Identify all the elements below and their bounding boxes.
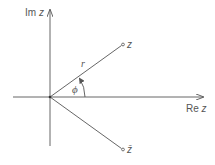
- real-axis-label-prefix: Re: [186, 103, 199, 114]
- real-axis-label-var: z: [201, 103, 207, 114]
- modulus-line-conjugate: [50, 97, 122, 149]
- complex-plane-diagram: Im z Re z z z̄ r ϕ: [0, 0, 215, 165]
- modulus-line-z: [50, 46, 122, 98]
- imaginary-axis-label-var: z: [38, 7, 44, 18]
- origin-point: [49, 96, 52, 99]
- point-z-label: z: [126, 39, 132, 50]
- real-axis-label: Re z: [186, 103, 207, 114]
- point-z-conjugate: [122, 148, 125, 151]
- modulus-label: r: [81, 58, 85, 69]
- point-z: [122, 43, 125, 46]
- imaginary-axis-label: Im z: [25, 7, 44, 18]
- point-z-conjugate-label: z̄: [126, 144, 132, 155]
- angle-label: ϕ: [72, 83, 78, 95]
- angle-arc: [80, 78, 86, 97]
- imaginary-axis-label-prefix: Im: [25, 7, 36, 18]
